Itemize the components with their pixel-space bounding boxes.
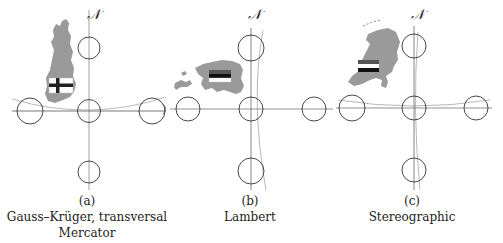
panel-a-caption-line2: Mercator bbox=[59, 226, 116, 241]
estonia-islands bbox=[174, 71, 192, 90]
netherlands-flag bbox=[358, 60, 379, 72]
north-label-c: 𝒩 bbox=[411, 6, 424, 23]
north-label-a: 𝒩 bbox=[87, 6, 100, 23]
panel-a-caption-line1: Gauss–Krüger, transversal bbox=[7, 210, 167, 225]
panel-b-tag: (b) bbox=[241, 194, 258, 209]
panel-b bbox=[163, 28, 333, 190]
panel-a bbox=[12, 10, 166, 190]
panel-a-tag: (a) bbox=[79, 194, 96, 209]
north-label-b: 𝒩 bbox=[248, 6, 261, 23]
finland-flag bbox=[49, 78, 73, 93]
estonia-flag bbox=[209, 70, 231, 82]
panel-c-tag: (c) bbox=[404, 194, 420, 209]
panel-b-caption: Lambert bbox=[224, 210, 276, 225]
netherlands-map bbox=[348, 28, 400, 88]
projection-figure: 𝒩 𝒩 𝒩 (a) Gauss–Krüger, transversal Merc… bbox=[0, 0, 503, 243]
panel-c bbox=[336, 20, 492, 190]
panel-c-caption: Stereographic bbox=[369, 210, 456, 225]
